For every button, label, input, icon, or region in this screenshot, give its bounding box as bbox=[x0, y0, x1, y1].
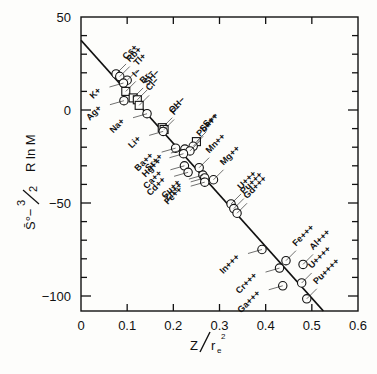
x-axis-title: Z r e 2 bbox=[190, 332, 226, 355]
x-axis-denominator: r bbox=[211, 338, 216, 353]
leader-line bbox=[213, 170, 223, 180]
y-axis-fraction-num: 3 bbox=[15, 200, 27, 206]
y-tick-label: −50 bbox=[49, 196, 71, 211]
x-tick-label: 0.3 bbox=[210, 318, 228, 333]
y-tick-label: −100 bbox=[42, 289, 71, 304]
cation-circle-marker bbox=[119, 79, 127, 87]
ion-label: Mn++ bbox=[204, 131, 228, 155]
x-tick-label: 0.6 bbox=[349, 318, 367, 333]
ion-label: Mg++ bbox=[218, 143, 242, 167]
leader-line bbox=[137, 90, 147, 100]
x-axis-slash bbox=[200, 332, 210, 352]
ion-label: Li+ bbox=[126, 134, 142, 150]
ion-label: In+++ bbox=[218, 252, 242, 276]
x-tick-label: 0.2 bbox=[164, 318, 182, 333]
cation-circle-marker bbox=[275, 264, 283, 272]
y-tick-label: 50 bbox=[57, 10, 71, 25]
ion-label: Ag+ bbox=[84, 103, 103, 122]
chart-canvas: 00.10.20.30.40.50.6500−50−100 Cs+Rb+Tl+K… bbox=[0, 0, 377, 374]
y-axis-s-bar: S̄°− bbox=[23, 209, 38, 230]
y-tick-label: 0 bbox=[64, 103, 71, 118]
leader-line bbox=[120, 67, 130, 77]
leader-line bbox=[199, 158, 209, 168]
x-tick-label: 0.4 bbox=[257, 318, 275, 333]
ion-label: K+ bbox=[87, 85, 102, 100]
y-axis-r-ln-m: R ln M bbox=[23, 134, 38, 172]
y-axis-fraction-den: 2 bbox=[27, 186, 39, 192]
x-axis-subscript: e bbox=[217, 346, 222, 355]
x-tick-label: 0.5 bbox=[303, 318, 321, 333]
x-axis-numerator: Z bbox=[190, 338, 198, 353]
x-tick-label: 0.1 bbox=[118, 318, 136, 333]
x-axis-superscript: 2 bbox=[221, 332, 226, 341]
x-tick-label: 0 bbox=[77, 318, 84, 333]
leader-line bbox=[302, 273, 312, 283]
ion-label: Na+ bbox=[108, 116, 127, 135]
y-axis-title: S̄°− 3 2 R ln M bbox=[15, 134, 39, 230]
leader-line bbox=[286, 251, 296, 261]
